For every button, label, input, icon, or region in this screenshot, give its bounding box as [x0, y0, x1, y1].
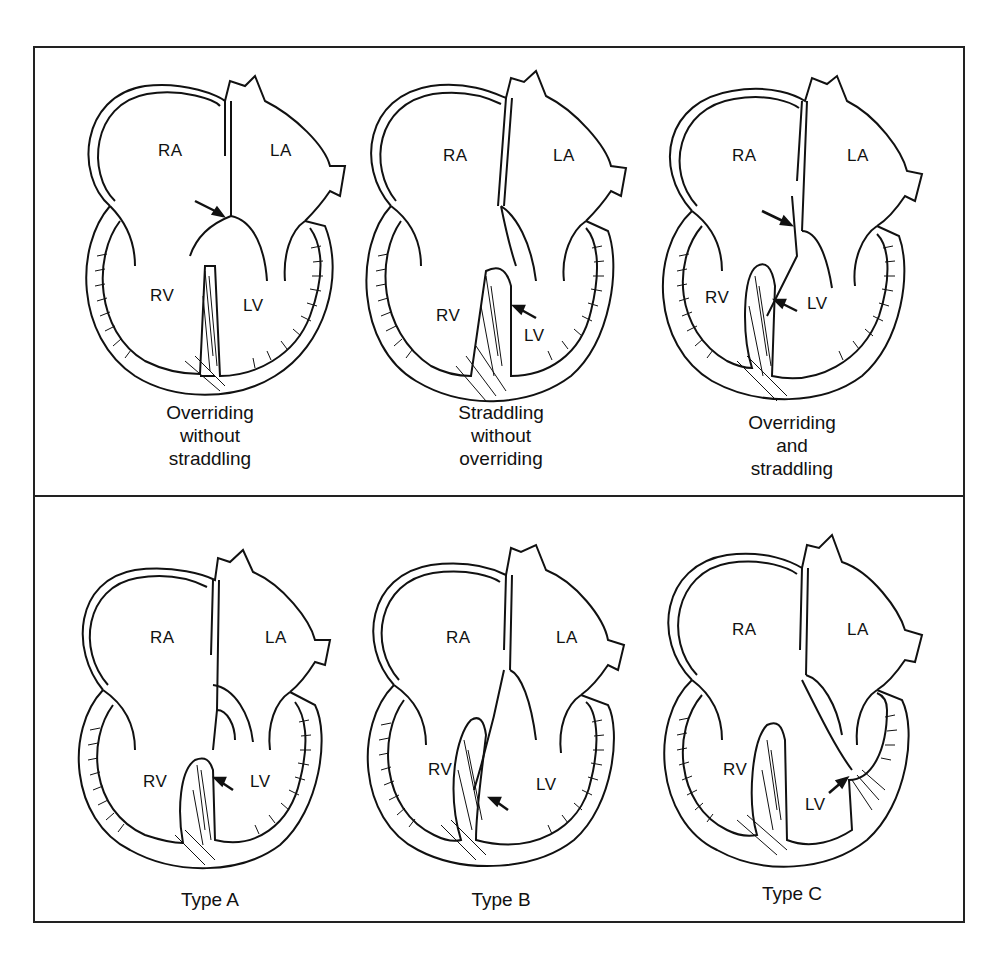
label-la: LA: [553, 146, 575, 166]
panel-caption: Straddling without overriding: [346, 401, 656, 470]
heart-diagram-icon: [346, 56, 656, 416]
panel-straddling-without-overriding: RA LA RV LV Straddling without overridin…: [346, 56, 656, 496]
panel-caption: Type B: [346, 888, 656, 911]
panel-overriding-without-straddling: RA LA RV LV Overriding without straddlin…: [55, 56, 365, 496]
label-rv: RV: [436, 306, 460, 326]
label-la: LA: [556, 628, 578, 648]
panel-caption: Type C: [637, 882, 947, 905]
label-ra: RA: [732, 146, 757, 166]
heart-diagram-icon: [55, 510, 365, 870]
figure-frame: RA LA RV LV Overriding without straddlin…: [33, 46, 965, 923]
heart-diagram-icon: [637, 56, 947, 416]
label-la: LA: [847, 620, 869, 640]
label-rv: RV: [143, 772, 167, 792]
heart-diagram-icon: [346, 510, 656, 870]
label-ra: RA: [446, 628, 471, 648]
label-ra: RA: [150, 628, 175, 648]
label-la: LA: [847, 146, 869, 166]
label-rv: RV: [705, 288, 729, 308]
label-lv: LV: [807, 294, 828, 314]
panel-type-a: RA LA RV LV Type A: [55, 510, 365, 920]
label-lv: LV: [250, 772, 271, 792]
label-ra: RA: [443, 146, 468, 166]
panel-caption: Overriding and straddling: [637, 411, 947, 480]
label-lv: LV: [805, 795, 826, 815]
label-la: LA: [265, 628, 287, 648]
panel-overriding-and-straddling: RA LA RV LV Overriding and straddling: [637, 56, 947, 496]
panel-type-c: RA LA RV LV Type C: [637, 510, 947, 920]
panel-caption: Overriding without straddling: [55, 401, 365, 470]
label-lv: LV: [536, 775, 557, 795]
label-lv: LV: [243, 296, 264, 316]
panel-type-b: RA LA RV LV Type B: [346, 510, 656, 920]
label-la: LA: [270, 141, 292, 161]
heart-diagram-icon: [637, 510, 947, 870]
heart-diagram-icon: [55, 56, 365, 416]
label-rv: RV: [723, 760, 747, 780]
panel-caption: Type A: [55, 888, 365, 911]
label-lv: LV: [524, 326, 545, 346]
label-rv: RV: [150, 286, 174, 306]
label-ra: RA: [158, 141, 183, 161]
label-rv: RV: [428, 760, 452, 780]
label-ra: RA: [732, 620, 757, 640]
